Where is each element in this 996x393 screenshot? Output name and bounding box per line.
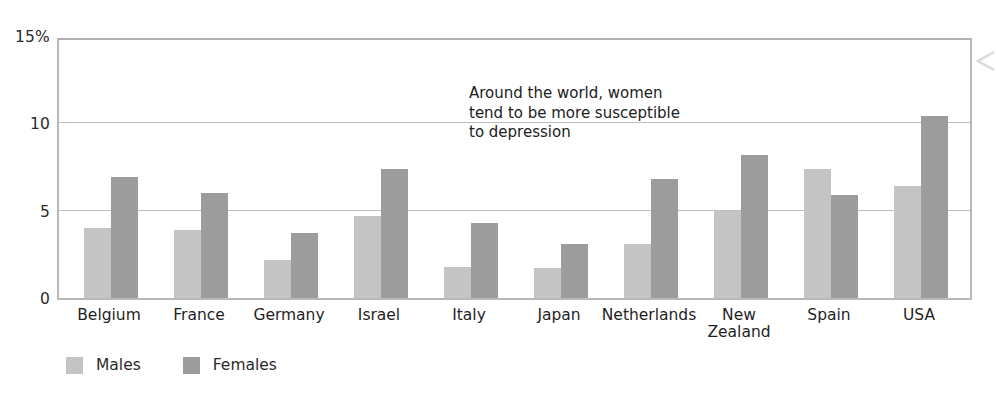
bar-males bbox=[714, 211, 741, 298]
chevron-left-icon bbox=[974, 48, 996, 76]
bar-males bbox=[894, 186, 921, 298]
legend-label: Females bbox=[213, 356, 277, 374]
chart-page: 051015% Around the world, womentend to b… bbox=[0, 0, 996, 393]
x-axis-category-label: USA bbox=[854, 307, 984, 324]
bar-females bbox=[651, 179, 678, 298]
y-axis: 051015% bbox=[0, 0, 50, 393]
bar-males bbox=[444, 267, 471, 298]
bar-females bbox=[921, 116, 948, 298]
bar-males bbox=[534, 268, 561, 298]
bar-males bbox=[804, 169, 831, 298]
legend-swatch-icon bbox=[183, 357, 200, 374]
legend-swatch-icon bbox=[66, 357, 83, 374]
bar-females bbox=[201, 193, 228, 298]
bar-males bbox=[174, 230, 201, 298]
y-axis-tick-label: 15% bbox=[2, 28, 50, 46]
bar-females bbox=[471, 223, 498, 298]
bar-females bbox=[741, 155, 768, 298]
bar-females bbox=[381, 169, 408, 298]
bar-females bbox=[831, 195, 858, 298]
bar-females bbox=[561, 244, 588, 298]
legend-item-females[interactable]: Females bbox=[183, 356, 277, 374]
bar-males bbox=[84, 228, 111, 298]
bar-males bbox=[354, 216, 381, 298]
bar-females bbox=[291, 233, 318, 298]
y-axis-tick-label: 5 bbox=[2, 203, 50, 221]
bars-layer bbox=[59, 40, 970, 298]
bar-males bbox=[624, 244, 651, 298]
legend-label: Males bbox=[96, 356, 141, 374]
bar-males bbox=[264, 260, 291, 298]
bar-females bbox=[111, 177, 138, 298]
plot-area: Around the world, womentend to be more s… bbox=[57, 38, 972, 300]
legend-item-males[interactable]: Males bbox=[66, 356, 141, 374]
chart-legend: MalesFemales bbox=[66, 356, 277, 374]
chart-annotation: Around the world, womentend to be more s… bbox=[469, 84, 769, 143]
y-axis-tick-label: 10 bbox=[2, 115, 50, 133]
y-axis-tick-label: 0 bbox=[2, 290, 50, 308]
